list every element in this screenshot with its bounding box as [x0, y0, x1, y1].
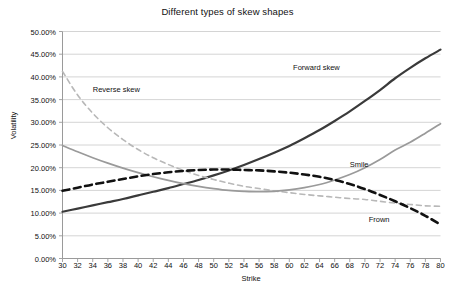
y-tick-label: 10.00%	[12, 209, 56, 218]
y-tick-label: 5.00%	[12, 231, 56, 240]
y-tick-label: 40.00%	[12, 72, 56, 81]
series-line-smile	[63, 124, 441, 192]
y-tick-label: 30.00%	[12, 118, 56, 127]
series-label-reverse-skew: Reverse skew	[93, 85, 140, 94]
plot-area	[0, 0, 455, 294]
gridlines	[63, 32, 441, 259]
y-tick-label: 50.00%	[12, 27, 56, 36]
chart-container: Different types of skew shapes Volatilit…	[0, 0, 455, 294]
series-label-forward-skew: Forward skew	[293, 63, 340, 72]
x-tick-label: 80	[431, 261, 451, 270]
data-series	[63, 50, 441, 225]
y-tick-label: 20.00%	[12, 163, 56, 172]
series-label-smile: Smile	[350, 160, 369, 169]
series-label-frown: Frown	[369, 215, 390, 224]
y-tick-label: 35.00%	[12, 95, 56, 104]
y-tick-label: 25.00%	[12, 141, 56, 150]
y-tick-label: 0.00%	[12, 254, 56, 263]
y-tick-label: 15.00%	[12, 186, 56, 195]
y-tick-label: 45.00%	[12, 50, 56, 59]
